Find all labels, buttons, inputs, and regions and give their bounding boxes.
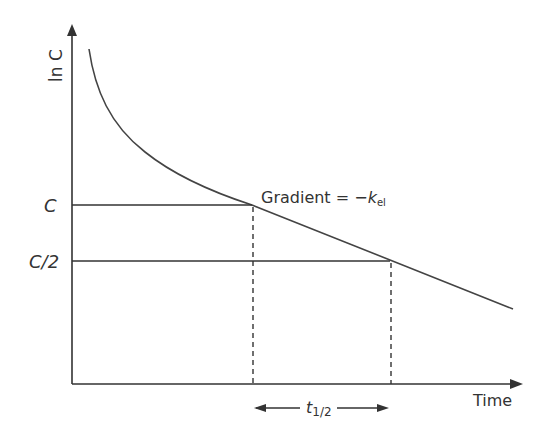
x-axis-arrow-icon (510, 379, 523, 389)
y-axis-label: ln C (46, 49, 66, 82)
ln-c-time-diagram: ln C C C/2 Gradient = −kel t1/2 Time (0, 0, 545, 434)
half-life-sub: 1/2 (312, 405, 331, 419)
left-arrow-icon (254, 404, 266, 412)
x-axis (72, 379, 523, 389)
right-arrow-icon (377, 404, 389, 412)
y-axis (67, 24, 77, 384)
half-life-label: t1/2 (306, 398, 332, 419)
x-axis-label: Time (472, 391, 512, 410)
c-level-label: C (44, 195, 57, 216)
c-half-level-label: C/2 (29, 251, 59, 272)
gradient-k-sub: el (377, 197, 386, 208)
gradient-text: Gradient = − (261, 188, 368, 207)
ln-c-curve (89, 49, 513, 309)
gradient-label: Gradient = −kel (261, 188, 386, 208)
y-axis-arrow-icon (67, 24, 77, 36)
